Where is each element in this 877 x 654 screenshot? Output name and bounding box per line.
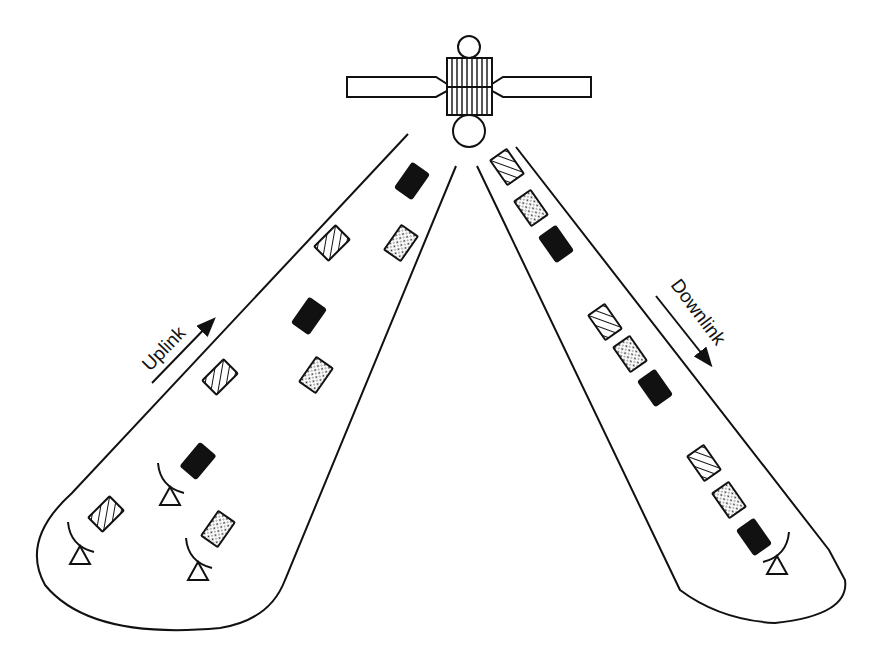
packet-solid — [539, 226, 573, 262]
solar-panel-left — [347, 77, 447, 97]
satellite-body — [447, 58, 492, 115]
packet-dotted — [384, 225, 418, 261]
packet-hatched — [490, 149, 524, 185]
packet-hatched — [314, 225, 349, 260]
packet-solid — [395, 163, 429, 199]
packet-hatched — [88, 496, 123, 531]
packet-solid — [292, 298, 326, 334]
packet-hatched — [687, 445, 721, 481]
bottom-antenna-dish-icon — [453, 115, 485, 147]
downlink-direction: Downlink — [656, 275, 730, 364]
packet-solid — [181, 443, 216, 479]
uplink-beam — [37, 134, 456, 630]
packet-dotted — [299, 357, 333, 393]
ground-station-dish-icon — [186, 538, 212, 580]
top-antenna-dish-icon — [458, 36, 480, 58]
downlink-packets — [490, 149, 771, 555]
ground-station-dish-icon — [158, 463, 184, 505]
satellite-link-diagram: Uplink Downlink — [0, 0, 877, 654]
satellite — [347, 36, 591, 147]
packet-hatched — [588, 304, 622, 340]
packet-solid — [638, 370, 672, 406]
ground-station-dish-icon — [68, 522, 94, 564]
packet-dotted — [201, 511, 235, 547]
packet-solid — [737, 519, 771, 555]
solar-panel-right — [492, 77, 591, 97]
packet-dotted — [514, 190, 548, 226]
uplink-label: Uplink — [138, 322, 190, 375]
uplink-direction: Uplink — [138, 320, 213, 383]
ground-stations — [68, 463, 789, 580]
packet-hatched — [202, 359, 237, 394]
downlink-label: Downlink — [667, 275, 730, 350]
packet-dotted — [613, 336, 647, 372]
packet-dotted — [712, 482, 746, 518]
